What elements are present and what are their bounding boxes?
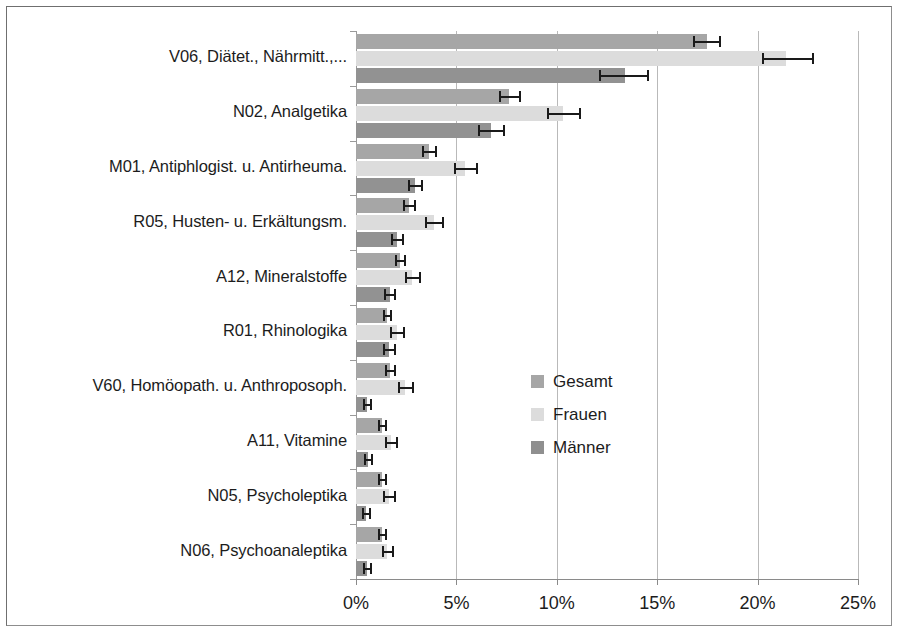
legend-swatch-icon bbox=[531, 441, 544, 454]
error-bar-frauen bbox=[547, 108, 581, 119]
error-bar-frauen bbox=[383, 491, 396, 502]
bar-maenner bbox=[356, 123, 491, 138]
error-bar-line bbox=[547, 113, 581, 115]
error-bar-cap-high bbox=[442, 217, 444, 228]
error-bar-gesamt bbox=[378, 529, 387, 540]
error-bar-frauen bbox=[390, 327, 405, 338]
error-bar-cap-high bbox=[404, 255, 406, 266]
x-tick-label: 15% bbox=[617, 593, 697, 614]
error-bar-cap-high bbox=[476, 163, 478, 174]
x-axis-tick bbox=[356, 579, 357, 585]
error-bar-cap-high bbox=[385, 420, 387, 431]
category-label: N06, Psychoanaleptika bbox=[180, 541, 347, 560]
error-bar-cap-high bbox=[414, 200, 416, 211]
error-bar-maenner bbox=[383, 344, 396, 355]
bar-gesamt bbox=[356, 34, 707, 49]
error-bar-line bbox=[499, 96, 521, 98]
error-bar-gesamt bbox=[693, 36, 721, 47]
error-bar-frauen bbox=[425, 217, 444, 228]
error-bar-cap-high bbox=[419, 272, 421, 283]
error-bar-frauen bbox=[405, 272, 421, 283]
bar-gesamt bbox=[356, 89, 509, 104]
x-axis-line bbox=[356, 579, 858, 580]
error-bar-line bbox=[762, 58, 814, 60]
error-bar-cap-high bbox=[394, 365, 396, 376]
category-label: A11, Vitamine bbox=[247, 431, 347, 450]
error-bar-maenner bbox=[364, 454, 373, 465]
error-bar-line bbox=[454, 168, 478, 170]
error-bar-cap-high bbox=[519, 91, 521, 102]
error-bar-cap-high bbox=[647, 70, 649, 81]
error-bar-frauen bbox=[454, 163, 478, 174]
error-bar-cap-high bbox=[412, 382, 414, 393]
bar-frauen bbox=[356, 161, 465, 176]
error-bar-cap-high bbox=[719, 36, 721, 47]
category-label: M01, Antiphlogist. u. Antirheuma. bbox=[109, 157, 347, 176]
error-bar-frauen bbox=[762, 53, 814, 64]
error-bar-maenner bbox=[384, 289, 396, 300]
legend-item-frauen[interactable]: Frauen bbox=[531, 398, 613, 431]
error-bar-cap-high bbox=[394, 344, 396, 355]
legend-swatch-icon bbox=[531, 408, 544, 421]
bar-maenner bbox=[356, 178, 415, 193]
chart-page: V06, Diätet., Nährmitt.,...N02, Analgeti… bbox=[0, 0, 900, 638]
error-bar-cap-high bbox=[435, 146, 437, 157]
error-bar-gesamt bbox=[378, 420, 387, 431]
error-bar-gesamt bbox=[383, 310, 392, 321]
error-bar-frauen bbox=[385, 437, 398, 448]
x-tick-label: 5% bbox=[416, 593, 496, 614]
bar-gesamt bbox=[356, 198, 409, 213]
error-bar-maenner bbox=[408, 180, 423, 191]
x-axis-tick bbox=[456, 579, 457, 585]
error-bar-maenner bbox=[599, 70, 649, 81]
error-bar-gesamt bbox=[385, 365, 396, 376]
error-bar-cap-high bbox=[370, 563, 372, 574]
legend-item-maenner[interactable]: Männer bbox=[531, 431, 613, 464]
x-axis-tick bbox=[557, 579, 558, 585]
category-label: A12, Mineralstoffe bbox=[216, 267, 347, 286]
error-bar-cap-high bbox=[394, 491, 396, 502]
bar-frauen bbox=[356, 51, 786, 66]
legend-label: Frauen bbox=[553, 405, 607, 425]
error-bar-cap-high bbox=[503, 125, 505, 136]
error-bar-cap-high bbox=[370, 399, 372, 410]
gridline bbox=[858, 31, 859, 579]
category-label: N02, Analgetika bbox=[233, 102, 347, 121]
error-bar-line bbox=[478, 130, 504, 132]
bar-gesamt bbox=[356, 253, 400, 268]
bar-frauen bbox=[356, 270, 412, 285]
error-bar-maenner bbox=[363, 563, 372, 574]
bar-frauen bbox=[356, 215, 434, 230]
category-label: N05, Psycholeptika bbox=[208, 486, 347, 505]
error-bar-cap-high bbox=[812, 53, 814, 64]
error-bar-cap-high bbox=[579, 108, 581, 119]
bar-maenner bbox=[356, 68, 625, 83]
x-tick-label: 25% bbox=[818, 593, 898, 614]
error-bar-maenner bbox=[362, 508, 371, 519]
error-bar-maenner bbox=[363, 399, 372, 410]
category-label: V06, Diätet., Nährmitt.,... bbox=[169, 47, 347, 66]
error-bar-cap-high bbox=[421, 180, 423, 191]
error-bar-cap-high bbox=[385, 529, 387, 540]
x-axis-tick bbox=[758, 579, 759, 585]
error-bar-gesamt bbox=[403, 200, 416, 211]
legend-label: Gesamt bbox=[553, 372, 613, 392]
error-bar-cap-high bbox=[390, 310, 392, 321]
category-label: R05, Husten- u. Erkältungsm. bbox=[133, 212, 347, 231]
error-bar-frauen bbox=[398, 382, 414, 393]
category-label: R01, Rhinologika bbox=[223, 321, 347, 340]
error-bar-cap-high bbox=[396, 437, 398, 448]
error-bar-gesamt bbox=[499, 91, 521, 102]
error-bar-gesamt bbox=[395, 255, 406, 266]
error-bar-cap-high bbox=[403, 327, 405, 338]
error-bar-line bbox=[693, 41, 721, 43]
error-bar-cap-high bbox=[385, 474, 387, 485]
error-bar-cap-high bbox=[371, 454, 373, 465]
legend-item-gesamt[interactable]: Gesamt bbox=[531, 365, 613, 398]
x-tick-label: 20% bbox=[718, 593, 798, 614]
chart-legend: GesamtFrauenMänner bbox=[531, 365, 613, 464]
x-tick-label: 10% bbox=[517, 593, 597, 614]
error-bar-line bbox=[599, 75, 649, 77]
legend-swatch-icon bbox=[531, 375, 544, 388]
error-bar-gesamt bbox=[378, 474, 387, 485]
